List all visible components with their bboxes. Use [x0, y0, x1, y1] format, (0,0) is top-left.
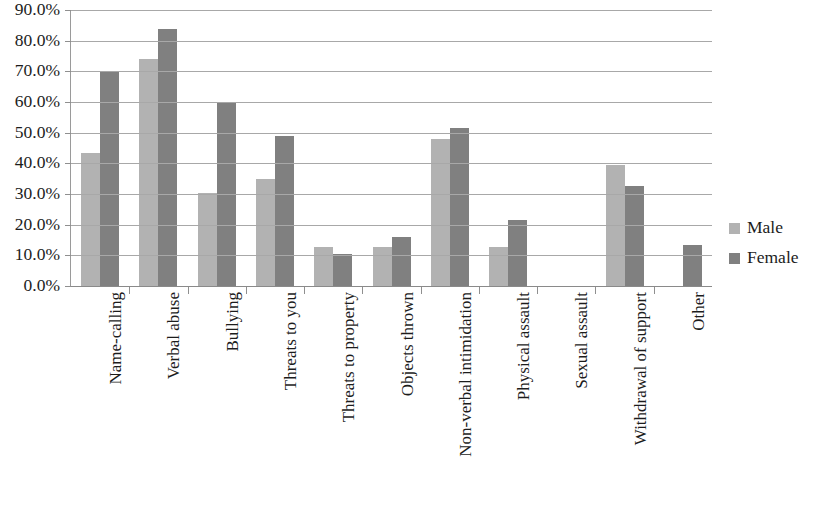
- bar-group: [489, 10, 527, 286]
- bar-group: [256, 10, 294, 286]
- y-tick-mark: [65, 102, 71, 103]
- y-tick-mark: [65, 41, 71, 42]
- gridline: [71, 71, 712, 72]
- bar-male: [198, 193, 217, 286]
- legend-swatch-icon: [729, 223, 740, 234]
- x-axis-category-label: Bullying: [223, 292, 242, 352]
- x-axis-category-label: Name-calling: [106, 292, 125, 385]
- bar-female: [275, 136, 294, 286]
- x-axis-category-label: Withdrawal of support: [631, 292, 650, 445]
- x-axis-category-label: Physical assault: [514, 292, 533, 400]
- gridline: [71, 255, 712, 256]
- bar-male: [81, 153, 100, 286]
- y-tick-label: 0.0%: [24, 277, 60, 295]
- legend-label: Male: [747, 219, 783, 237]
- bar-group: [314, 10, 352, 286]
- gridline: [71, 10, 712, 11]
- y-tick-label: 60.0%: [15, 93, 60, 111]
- legend-item[interactable]: Male: [729, 213, 813, 243]
- bar-female: [100, 71, 119, 286]
- x-axis-category-label: Threats to property: [339, 292, 358, 422]
- bar-group: [139, 10, 177, 286]
- bar-male: [373, 247, 392, 286]
- bar-group: [664, 10, 702, 286]
- bar-group: [547, 10, 585, 286]
- y-tick-mark: [65, 10, 71, 11]
- y-tick-mark: [65, 286, 71, 287]
- gridline: [71, 163, 712, 164]
- bar-female: [625, 186, 644, 286]
- y-tick-label: 50.0%: [15, 124, 60, 142]
- legend-item[interactable]: Female: [729, 243, 813, 273]
- y-tick-label: 10.0%: [15, 246, 60, 264]
- bar-group: [81, 10, 119, 286]
- bar-female: [683, 245, 702, 286]
- bar-female: [333, 254, 352, 287]
- axis-baseline: [71, 286, 712, 287]
- y-tick-mark: [65, 255, 71, 256]
- x-axis-category-label: Objects thrown: [398, 292, 417, 396]
- y-tick-label: 80.0%: [15, 32, 60, 50]
- legend-label: Female: [747, 249, 799, 267]
- x-axis-category-label: Non-verbal intimidation: [456, 292, 475, 457]
- bar-chart: 90.0%80.0%70.0%60.0%50.0%40.0%30.0%20.0%…: [0, 0, 813, 513]
- gridline: [71, 133, 712, 134]
- bar-group: [198, 10, 236, 286]
- bar-female: [508, 220, 527, 286]
- bar-group: [606, 10, 644, 286]
- bar-male: [256, 179, 275, 286]
- y-tick-mark: [65, 225, 71, 226]
- bar-female: [450, 128, 469, 286]
- bar-group: [373, 10, 411, 286]
- y-tick-mark: [65, 194, 71, 195]
- y-tick-label: 40.0%: [15, 154, 60, 172]
- y-tick-label: 20.0%: [15, 216, 60, 234]
- gridline: [71, 194, 712, 195]
- legend-swatch-icon: [729, 253, 740, 264]
- bar-female: [392, 237, 411, 286]
- gridline: [71, 102, 712, 103]
- y-tick-mark: [65, 133, 71, 134]
- x-axis-category-label: Sexual assault: [572, 292, 591, 389]
- y-tick-mark: [65, 163, 71, 164]
- bar-female: [158, 29, 177, 286]
- y-axis-labels: 90.0%80.0%70.0%60.0%50.0%40.0%30.0%20.0%…: [0, 0, 66, 296]
- y-tick-label: 30.0%: [15, 185, 60, 203]
- bar-male: [314, 247, 333, 286]
- x-axis-category-label: Other: [689, 292, 708, 331]
- x-axis-category-label: Threats to you: [281, 292, 300, 390]
- y-tick-mark: [65, 71, 71, 72]
- plot-area: [70, 10, 712, 286]
- x-axis-labels: Name-callingVerbal abuseBullyingThreats …: [70, 292, 711, 507]
- gridline: [71, 225, 712, 226]
- bar-male: [431, 139, 450, 286]
- x-axis-category-label: Verbal abuse: [164, 292, 183, 379]
- y-tick-label: 90.0%: [15, 1, 60, 19]
- chart-legend: MaleFemale: [729, 213, 813, 273]
- bars-layer: [71, 10, 712, 286]
- gridline: [71, 41, 712, 42]
- bar-male: [139, 59, 158, 286]
- bar-group: [431, 10, 469, 286]
- y-tick-label: 70.0%: [15, 62, 60, 80]
- bar-male: [489, 247, 508, 286]
